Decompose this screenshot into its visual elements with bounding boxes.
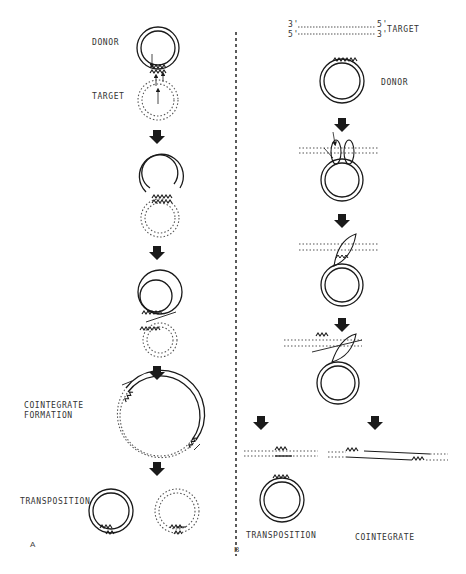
b-step4	[284, 333, 362, 404]
arrow-down-icon	[149, 366, 165, 380]
b-step2	[299, 132, 378, 201]
b-step3	[299, 234, 378, 306]
label-cointegrate-1: COINTEGRATE	[24, 401, 84, 411]
arrow-down-icon	[149, 130, 165, 144]
a-step4-cointegrate	[117, 370, 204, 457]
panel-label-b: B	[234, 545, 239, 554]
arrow-down-icon	[149, 246, 165, 260]
label-target-b: TARGET	[387, 25, 420, 35]
label-target-a: TARGET	[92, 92, 125, 102]
b-target-duplex	[298, 27, 376, 34]
label-transposition-a: TRANSPOSITION	[20, 497, 90, 507]
a-step3	[138, 270, 182, 357]
label-5prime-left: 5'	[288, 30, 299, 40]
label-cointegrate-b: COINTEGRATE	[355, 533, 415, 543]
arrow-down-icon	[367, 416, 383, 430]
b-donor	[320, 58, 364, 103]
b-outcome-cointegrate	[328, 448, 448, 460]
arrow-down-icon	[334, 118, 350, 132]
panel-label-a: A	[30, 540, 35, 549]
arrow-down-icon	[334, 318, 350, 332]
b-outcome-transposition	[244, 447, 318, 522]
label-donor-a: DONOR	[92, 38, 119, 48]
a-step5-transposition	[89, 489, 199, 534]
arrow-down-icon	[253, 416, 269, 430]
a-step2	[139, 154, 183, 237]
arrow-down-icon	[334, 214, 350, 228]
arrow-down-icon	[149, 462, 165, 476]
label-transposition-b: TRANSPOSITION	[246, 531, 316, 541]
a-step1	[137, 27, 179, 120]
label-cointegrate-2: FORMATION	[24, 411, 73, 421]
label-3prime-left: 3'	[288, 20, 299, 30]
label-donor-b: DONOR	[381, 78, 408, 88]
